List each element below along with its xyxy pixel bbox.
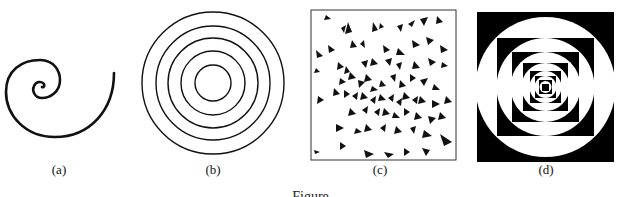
random-triangles-drawing [311,10,456,160]
panel-label-b: (b) [193,162,233,178]
panel-label-a: (a) [39,162,79,178]
nested-squares-circles-drawing [476,12,616,162]
figure-caption: Figure [0,186,621,197]
panel-label-c: (c) [360,162,400,178]
concentric-circles-drawing [142,12,284,154]
spiral-drawing [6,60,114,137]
panel-label-d: (d) [526,162,566,178]
